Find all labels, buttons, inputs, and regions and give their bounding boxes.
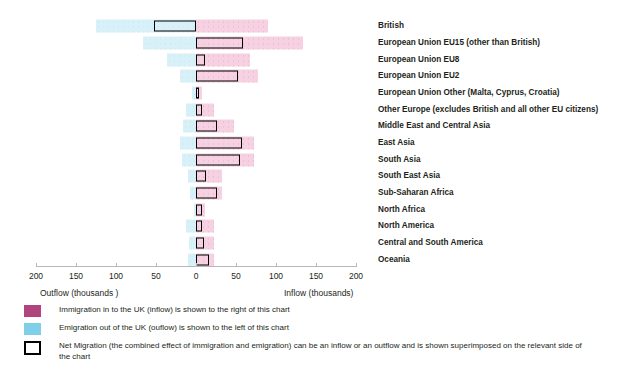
chart-row — [36, 85, 356, 102]
category-label: East Asia — [378, 139, 415, 147]
net-migration-bar — [196, 171, 206, 182]
outflow-bar — [180, 136, 196, 149]
chart-legend: Immigration in to the UK (inflow) is sho… — [24, 305, 604, 369]
outflow-bar — [188, 253, 196, 266]
legend-item-inflow-label: Immigration in to the UK (inflow) is sho… — [59, 305, 290, 316]
chart-row — [36, 235, 356, 252]
axis-tick — [156, 263, 157, 267]
category-label: Oceania — [378, 256, 410, 264]
plot-area — [36, 18, 356, 268]
axis-tick — [116, 263, 117, 267]
category-label: Sub-Saharan Africa — [378, 189, 454, 197]
axis-tick — [36, 263, 37, 267]
net-migration-bar — [196, 221, 202, 232]
net-migration-bar — [196, 187, 217, 198]
chart-row — [36, 185, 356, 202]
net-migration-bar — [196, 137, 242, 148]
outflow-bar — [189, 236, 196, 249]
category-label: North America — [378, 222, 434, 230]
net-migration-bar — [196, 71, 238, 82]
axis-tick-label: 50 — [231, 271, 240, 281]
category-label: European Union Other (Malta, Cyprus, Cro… — [378, 89, 560, 97]
axis-tick-label: 100 — [109, 271, 123, 281]
legend-item-net-migration-label: Net Migration (the combined effect of im… — [59, 341, 594, 363]
chart-row — [36, 18, 356, 35]
legend-item-outflow-label: Emigration out of the UK (ouflow) is sho… — [59, 323, 289, 334]
category-label: North Africa — [378, 206, 425, 214]
axis-tick — [276, 263, 277, 267]
category-label: South East Asia — [378, 172, 440, 180]
chart-row — [36, 35, 356, 52]
outflow-bar — [167, 53, 196, 66]
category-label: Middle East and Central Asia — [378, 122, 490, 130]
net-migration-swatch — [24, 341, 41, 355]
category-label: European Union EU8 — [378, 56, 459, 64]
outflow-swatch — [24, 323, 41, 335]
x-axis: 20015010050050100150200 — [36, 266, 356, 267]
chart-row — [36, 68, 356, 85]
chart-row — [36, 118, 356, 135]
chart-row — [36, 101, 356, 118]
outflow-bar — [182, 153, 196, 166]
migration-chart: 20015010050050100150200 Outflow (thousan… — [0, 0, 619, 300]
chart-row — [36, 168, 356, 185]
net-migration-bar — [196, 204, 202, 215]
net-migration-bar — [154, 21, 196, 32]
net-migration-bar — [196, 237, 204, 248]
inflow-axis-caption: Inflow (thousands) — [284, 288, 353, 298]
axis-tick — [76, 263, 77, 267]
net-migration-bar — [196, 37, 243, 48]
axis-tick-label: 150 — [69, 271, 83, 281]
category-label: Central and South America — [378, 239, 483, 247]
category-label: European Union EU2 — [378, 72, 459, 80]
net-migration-bar — [196, 254, 209, 265]
chart-row — [36, 151, 356, 168]
axis-tick — [356, 263, 357, 267]
axis-tick — [236, 263, 237, 267]
chart-row — [36, 135, 356, 152]
inflow-swatch — [24, 305, 41, 317]
outflow-bar — [143, 36, 196, 49]
outflow-axis-caption: Outflow (thousands ) — [40, 288, 118, 298]
net-migration-bar — [196, 121, 217, 132]
category-labels: BritishEuropean Union EU15 (other than B… — [378, 18, 618, 268]
category-label: British — [378, 22, 404, 30]
net-migration-bar — [196, 54, 205, 65]
axis-tick — [196, 263, 197, 267]
inflow-bar — [196, 20, 268, 33]
axis-tick-label: 0 — [194, 271, 199, 281]
chart-row — [36, 218, 356, 235]
chart-row — [36, 51, 356, 68]
net-migration-bar — [196, 104, 202, 115]
category-label: South Asia — [378, 156, 420, 164]
axis-tick — [316, 263, 317, 267]
legend-item-inflow: Immigration in to the UK (inflow) is sho… — [24, 305, 604, 317]
category-label: Other Europe (excludes British and all o… — [378, 106, 598, 114]
category-label: European Union EU15 (other than British) — [378, 39, 540, 47]
outflow-bar — [186, 220, 196, 233]
net-migration-bar — [196, 87, 199, 98]
chart-row — [36, 201, 356, 218]
outflow-bar — [186, 103, 196, 116]
axis-tick-label: 200 — [29, 271, 43, 281]
legend-item-outflow: Emigration out of the UK (ouflow) is sho… — [24, 323, 604, 335]
legend-item-net-migration: Net Migration (the combined effect of im… — [24, 341, 604, 363]
axis-tick-label: 50 — [151, 271, 160, 281]
net-migration-bar — [196, 154, 240, 165]
outflow-bar — [188, 170, 196, 183]
outflow-bar — [180, 70, 196, 83]
axis-tick-label: 200 — [349, 271, 363, 281]
axis-tick-label: 100 — [269, 271, 283, 281]
axis-tick-label: 150 — [309, 271, 323, 281]
outflow-bar — [183, 120, 196, 133]
